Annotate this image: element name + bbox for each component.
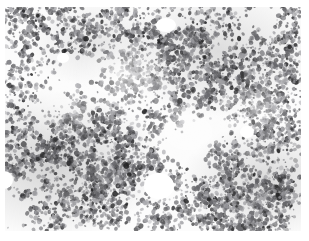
figure-margin-top (0, 0, 309, 7)
specimen-field (5, 7, 301, 231)
figure-margin-right (301, 0, 309, 241)
micrograph-figure (0, 0, 309, 241)
figure-margin-bottom (0, 231, 309, 241)
tissue-texture-canvas (5, 7, 301, 231)
